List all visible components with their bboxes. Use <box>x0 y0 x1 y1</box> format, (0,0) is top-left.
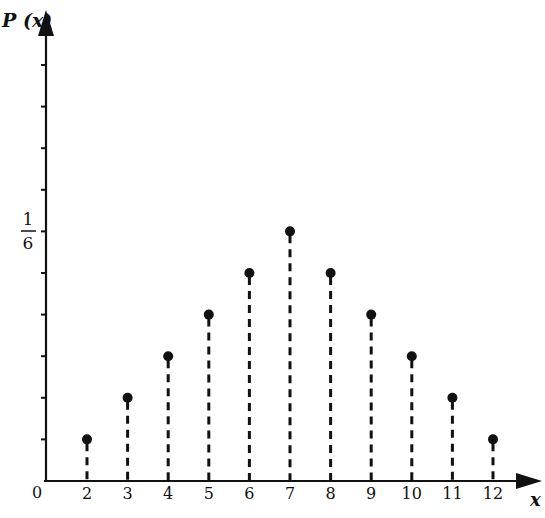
x-tick-label: 7 <box>285 484 295 503</box>
y-tick-label-one-sixth: 1 6 <box>21 209 36 253</box>
stem-point <box>244 268 254 481</box>
stem-point <box>488 434 498 481</box>
x-axis-arrow-icon <box>516 473 542 489</box>
x-tick-label: 11 <box>442 484 462 503</box>
x-tick-label: 10 <box>402 484 422 503</box>
x-tick-label: 5 <box>204 484 214 503</box>
stem-point <box>285 226 295 481</box>
stem-point <box>407 351 417 481</box>
data-point <box>366 310 376 320</box>
data-point <box>82 434 92 444</box>
x-tick-label: 6 <box>244 484 254 503</box>
stem-point <box>326 268 336 481</box>
data-point <box>407 351 417 361</box>
axes <box>44 30 528 482</box>
x-tick-label: 4 <box>163 484 173 503</box>
stem-point <box>82 434 92 481</box>
x-tick-label: 8 <box>326 484 336 503</box>
data-point <box>244 268 254 278</box>
data-point <box>326 268 336 278</box>
data-point <box>488 434 498 444</box>
x-tick-label: 9 <box>366 484 376 503</box>
stem-point <box>447 393 457 481</box>
x-axis-label: x <box>529 489 541 510</box>
x-tick-labels: 23456789101112 <box>82 484 503 503</box>
data-point <box>123 393 133 403</box>
data-point <box>163 351 173 361</box>
probability-stem-chart: 23456789101112 P (x) x 0 1 6 <box>0 0 545 518</box>
data-point <box>447 393 457 403</box>
stem-point <box>123 393 133 481</box>
data-stems <box>82 226 498 481</box>
y-axis-label: P (x) <box>1 9 52 31</box>
stem-point <box>366 310 376 481</box>
data-point <box>285 226 295 236</box>
x-tick-label: 2 <box>82 484 92 503</box>
x-tick-label: 3 <box>123 484 133 503</box>
x-tick-label: 12 <box>483 484 503 503</box>
fraction-denominator: 6 <box>23 233 34 253</box>
data-point <box>204 310 214 320</box>
fraction-numerator: 1 <box>23 209 34 229</box>
stem-point <box>204 310 214 481</box>
origin-label: 0 <box>32 483 42 502</box>
stem-point <box>163 351 173 481</box>
